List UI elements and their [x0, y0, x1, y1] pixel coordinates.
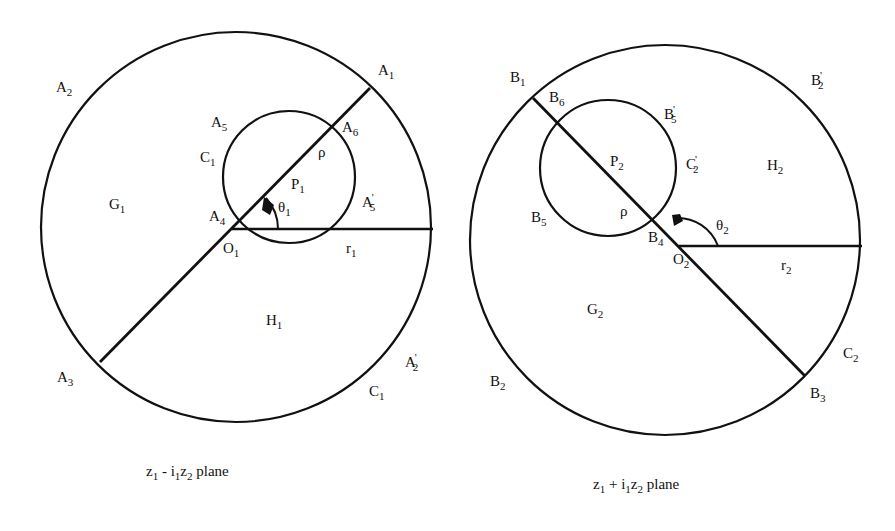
label-A2: A2 — [56, 80, 72, 98]
right-theta-arc — [675, 218, 718, 246]
label-B4: B4 — [648, 230, 664, 248]
label-B2-prime: B'2 — [811, 70, 824, 91]
left-outer-circle — [41, 32, 431, 422]
label-G2: G2 — [587, 302, 603, 320]
label-B5-prime: B'5 — [664, 104, 677, 125]
label-H2: H2 — [767, 158, 783, 176]
right-plane-caption: z1 + i1z2 plane — [593, 476, 679, 495]
label-P2: P2 — [610, 154, 624, 172]
label-O1: O1 — [223, 241, 239, 259]
label-B2: B2 — [490, 374, 506, 392]
label-A4: A4 — [209, 209, 225, 227]
label-C2-prime: C'2 — [686, 154, 699, 175]
label-B3: B3 — [810, 386, 826, 404]
label-C2: C2 — [843, 346, 859, 364]
label-A5-prime: A'5 — [362, 192, 375, 213]
label-A3: A3 — [57, 370, 73, 388]
right-inner-circle — [540, 100, 676, 236]
label-A2-prime: A'2 — [405, 352, 418, 373]
label-B6: B6 — [549, 90, 565, 108]
label-O2: O2 — [673, 252, 689, 270]
label-r1: r1 — [346, 241, 357, 259]
label-rho-left: ρ — [318, 145, 326, 160]
label-B5: B5 — [531, 210, 547, 228]
label-theta1: θ1 — [278, 200, 291, 218]
geometry-layer — [0, 0, 895, 531]
right-theta-arrowhead-icon — [672, 214, 683, 226]
label-A6: A6 — [342, 120, 358, 138]
left-inner-circle — [223, 111, 355, 243]
label-P1: P1 — [291, 177, 305, 195]
diagram-canvas: A2 A1 A5 A6 ρ C1 P1 A'5 G1 θ1 A4 O1 r1 H… — [0, 0, 895, 531]
left-diameter-line — [100, 88, 370, 362]
left-plane-caption: z1 - i1z2 plane — [146, 463, 229, 482]
label-H1: H1 — [266, 313, 282, 331]
label-C1-outer: C1 — [369, 384, 385, 402]
label-A1: A1 — [378, 63, 394, 81]
label-A5: A5 — [211, 115, 227, 133]
label-rho-right: ρ — [620, 204, 628, 219]
label-G1: G1 — [109, 197, 125, 215]
label-theta2: θ2 — [716, 218, 729, 236]
label-B1: B1 — [510, 70, 526, 88]
label-r2: r2 — [781, 258, 792, 276]
label-C1-inner: C1 — [200, 150, 216, 168]
